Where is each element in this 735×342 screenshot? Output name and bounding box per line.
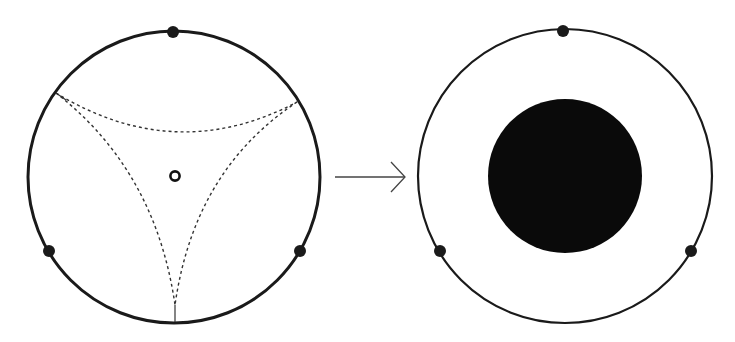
marked-point-left bbox=[43, 245, 55, 257]
marked-point-left bbox=[434, 245, 446, 257]
right-disk bbox=[418, 25, 712, 323]
stub-top-left bbox=[56, 93, 66, 100]
filled-central-disk bbox=[488, 99, 642, 253]
diagram-stage bbox=[0, 0, 735, 342]
marked-point-right bbox=[685, 245, 697, 257]
arrow-right-icon bbox=[335, 162, 405, 192]
left-disk bbox=[28, 26, 320, 323]
diagram-canvas bbox=[0, 0, 735, 342]
puncture-ring-icon bbox=[170, 171, 179, 180]
marked-point-top bbox=[557, 25, 569, 37]
geodesic-right bbox=[175, 102, 297, 305]
marked-point-right bbox=[294, 245, 306, 257]
geodesic-left bbox=[56, 93, 175, 305]
marked-point-top bbox=[167, 26, 179, 38]
